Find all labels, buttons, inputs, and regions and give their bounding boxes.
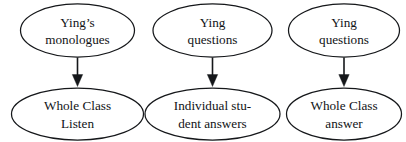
node-label-line2: monologues	[45, 32, 109, 47]
node-label-line1: Individual stu-	[174, 98, 251, 113]
node-ying-questions-1[interactable]: Ying questions	[153, 4, 272, 57]
flow-group-3: Ying questions Whole Class answer	[287, 4, 402, 140]
arrow-1	[72, 58, 82, 87]
node-whole-class-answer[interactable]: Whole Class answer	[287, 88, 402, 140]
flow-diagram: Ying’s monologues Whole Class Listen Yin…	[0, 0, 406, 142]
arrow-3	[339, 58, 349, 87]
node-ellipse-shape[interactable]	[289, 4, 400, 57]
arrow-2	[207, 58, 217, 87]
node-ellipse-shape[interactable]	[21, 4, 135, 57]
flow-group-1: Ying’s monologues Whole Class Listen	[12, 4, 144, 140]
node-label-line1: Whole Class	[310, 98, 377, 113]
node-ying-monologues[interactable]: Ying’s monologues	[21, 4, 135, 57]
node-label-line1: Ying	[200, 15, 226, 30]
node-label-line2: questions	[319, 32, 369, 47]
node-ellipse-shape[interactable]	[287, 88, 402, 140]
node-ellipse-shape[interactable]	[12, 88, 144, 140]
node-label-line2: questions	[188, 32, 238, 47]
node-ellipse-shape[interactable]	[145, 88, 280, 140]
node-label-line2: answer	[325, 116, 363, 131]
node-label-line2: Listen	[61, 116, 94, 131]
arrow-head-icon	[339, 75, 349, 87]
node-ellipse-shape[interactable]	[153, 4, 272, 57]
node-label-line1: Ying	[331, 15, 357, 30]
node-whole-class-listen[interactable]: Whole Class Listen	[12, 88, 144, 140]
node-label-line2: dent answers	[178, 116, 246, 131]
arrow-head-icon	[207, 75, 217, 87]
flow-group-2: Ying questions Individual stu- dent answ…	[145, 4, 280, 140]
node-label-line1: Whole Class	[44, 98, 111, 113]
node-label-line1: Ying’s	[60, 15, 94, 30]
node-individual-student-answers[interactable]: Individual stu- dent answers	[145, 88, 280, 140]
arrow-head-icon	[72, 75, 82, 87]
diagram-canvas: Ying’s monologues Whole Class Listen Yin…	[0, 0, 406, 142]
node-ying-questions-2[interactable]: Ying questions	[289, 4, 400, 57]
